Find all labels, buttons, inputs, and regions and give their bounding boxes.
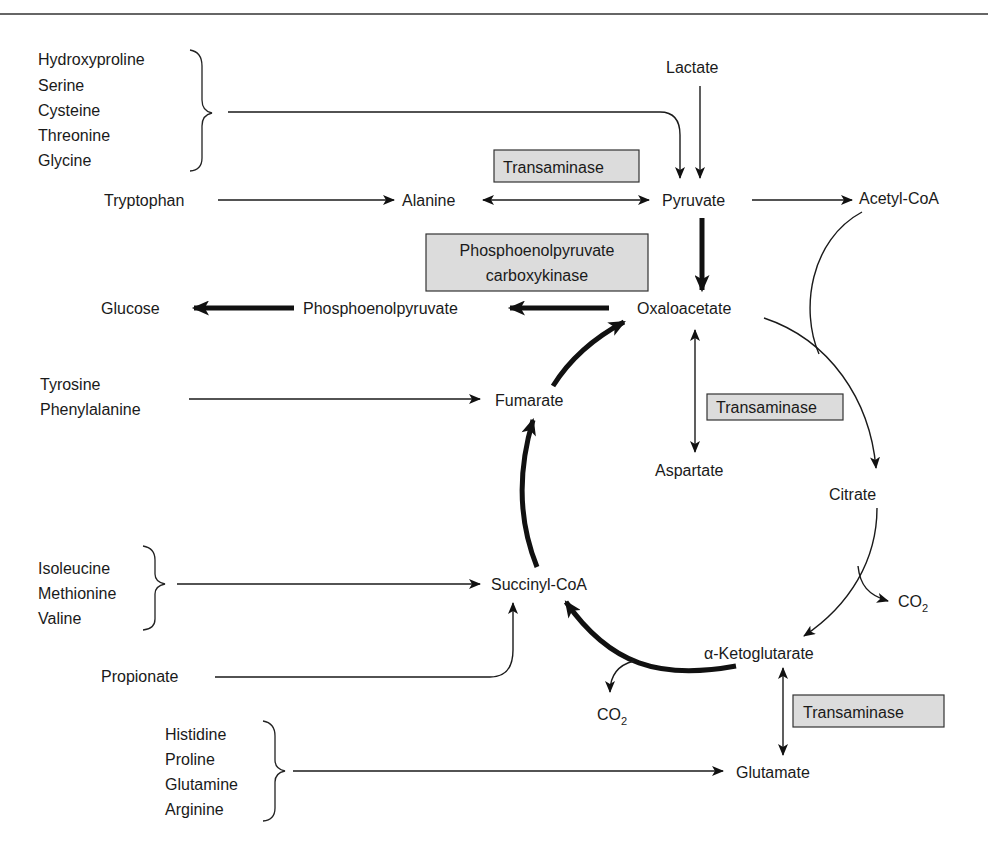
arrow-fumarate-to-oxaloacetate xyxy=(553,322,624,386)
metabolite-glucose: Glucose xyxy=(101,300,160,317)
arrow-acetyl-coa-to-citrate xyxy=(810,212,862,354)
amino-acid-label: Arginine xyxy=(165,801,224,818)
amino-acid-label: Valine xyxy=(38,610,81,627)
metabolite-succinyl-coa: Succinyl-CoA xyxy=(491,576,587,593)
arrow-akg-co2 xyxy=(610,661,634,692)
enzyme-transaminase-alanine: Transaminase xyxy=(503,159,604,176)
enzyme-transaminase-aspartate: Transaminase xyxy=(716,399,817,416)
metabolite-fumarate: Fumarate xyxy=(495,392,564,409)
pathway-diagram: Hydroxyproline Serine Cysteine Threonine… xyxy=(0,0,988,851)
amino-acid-label: Glutamine xyxy=(165,776,238,793)
metabolite-propionate: Propionate xyxy=(101,668,178,685)
amino-acid-group-to-glutamate: Histidine Proline Glutamine Arginine xyxy=(165,721,723,821)
amino-acid-label: Phenylalanine xyxy=(40,401,141,418)
arrow-propionate-to-succinyl-coa xyxy=(215,603,513,677)
amino-acid-label: Histidine xyxy=(165,726,226,743)
enzyme-transaminase-glutamate: Transaminase xyxy=(803,704,904,721)
amino-acid-label: Cysteine xyxy=(38,102,100,119)
enzyme-pepck-line2: carboxykinase xyxy=(486,267,588,284)
amino-acid-label: Methionine xyxy=(38,585,116,602)
brace-icon xyxy=(190,50,212,171)
metabolite-aspartate: Aspartate xyxy=(655,462,724,479)
metabolite-glutamate: Glutamate xyxy=(736,764,810,781)
metabolite-citrate: Citrate xyxy=(829,486,876,503)
metabolite-pyruvate: Pyruvate xyxy=(662,192,725,209)
co2-label-akg: CO2 xyxy=(597,706,627,727)
co2-label-citrate: CO2 xyxy=(898,593,928,614)
metabolite-lactate: Lactate xyxy=(666,59,719,76)
amino-acid-label: Glycine xyxy=(38,152,91,169)
amino-acid-label: Hydroxyproline xyxy=(38,51,145,68)
arrow-citrate-to-akg xyxy=(804,508,877,636)
amino-acid-label: Isoleucine xyxy=(38,560,110,577)
brace-icon xyxy=(263,721,285,821)
amino-acid-label: Threonine xyxy=(38,127,110,144)
amino-acid-label: Serine xyxy=(38,77,84,94)
amino-acid-label: Tyrosine xyxy=(40,376,101,393)
metabolite-phosphoenolpyruvate: Phosphoenolpyruvate xyxy=(303,300,458,317)
amino-acid-label: Proline xyxy=(165,751,215,768)
metabolite-alpha-ketoglutarate: α-Ketoglutarate xyxy=(704,645,814,662)
enzyme-pepck-line1: Phosphoenolpyruvate xyxy=(460,242,615,259)
amino-acid-tryptophan: Tryptophan xyxy=(104,192,184,209)
metabolite-alanine: Alanine xyxy=(402,192,455,209)
metabolite-oxaloacetate: Oxaloacetate xyxy=(637,300,731,317)
metabolite-acetyl-coa: Acetyl-CoA xyxy=(859,190,939,207)
arrow-succinyl-coa-to-fumarate xyxy=(522,420,537,567)
amino-acid-group-to-succinyl-coa: Isoleucine Methionine Valine xyxy=(38,546,480,630)
brace-icon xyxy=(143,546,165,630)
arrow-oxaloacetate-to-citrate xyxy=(764,318,876,468)
